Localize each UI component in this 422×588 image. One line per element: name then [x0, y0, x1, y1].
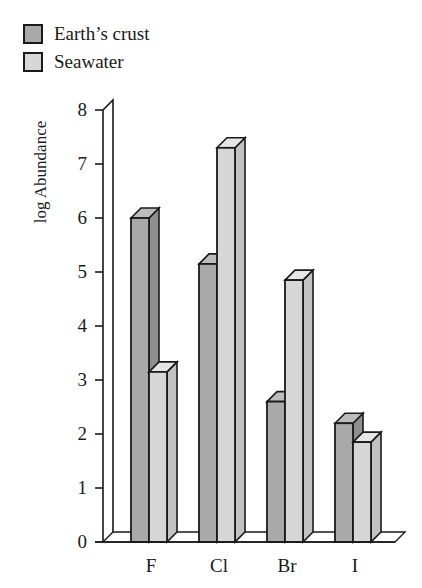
x-category-label: Cl [210, 555, 228, 576]
x-category-label: I [352, 555, 358, 576]
bar-Cl-seawater [217, 138, 245, 542]
y-tick-label: 7 [78, 153, 88, 174]
y-tick-label: 4 [78, 315, 88, 336]
y-tick-label: 6 [78, 207, 88, 228]
y-tick-label: 0 [78, 531, 88, 552]
y-tick-label: 3 [78, 369, 88, 390]
y-axis-wall [103, 100, 113, 542]
bar-F-seawater [149, 362, 177, 542]
y-tick-label: 8 [78, 99, 88, 120]
y-tick-label: 1 [78, 477, 88, 498]
y-tick-label: 5 [78, 261, 88, 282]
x-category-label: Br [278, 555, 298, 576]
bar-Br-seawater [285, 270, 313, 542]
x-category-label: F [146, 555, 157, 576]
y-axis-label: log Abundance [31, 121, 50, 223]
y-tick-label: 2 [78, 423, 88, 444]
bar-I-seawater [353, 432, 381, 542]
bar-chart: 012345678log AbundanceFClBrI [0, 0, 422, 588]
